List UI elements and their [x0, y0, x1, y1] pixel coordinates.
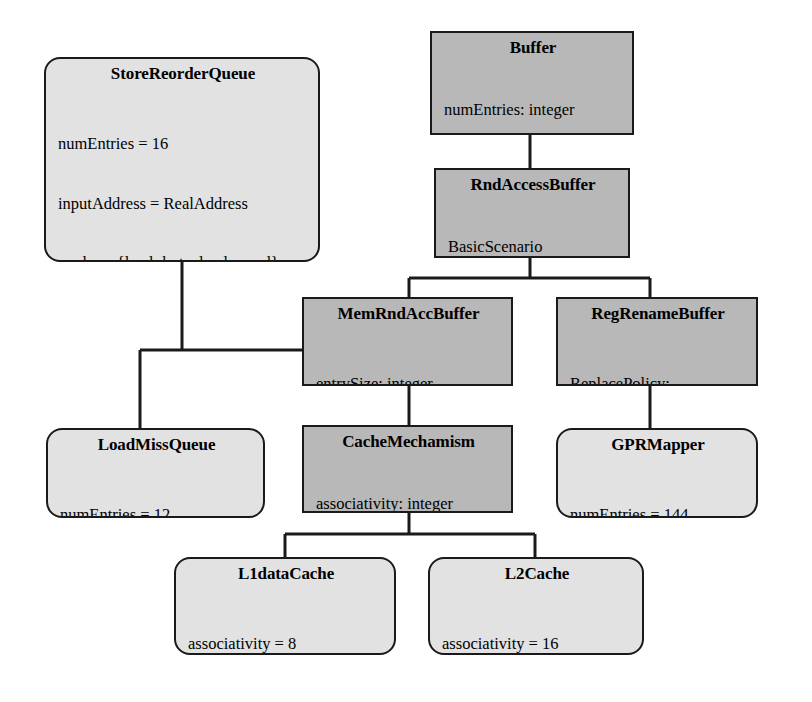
node-l2-cache[interactable]: L2Cache associativity = 16 ...	[428, 557, 644, 655]
node-title-mem-rnd-acc-buffer: MemRndAccBuffer	[316, 304, 501, 325]
node-rnd-access-buffer[interactable]: RndAccessBuffer BasicScenario RAW: ... W…	[434, 168, 630, 258]
node-attributes-load-miss-queue: numEntries = 12 entrySize = 8	[60, 465, 253, 518]
attribute-line: numEntries = 16	[58, 134, 308, 154]
node-attributes-buffer: numEntries: integer reader: instruction−…	[444, 60, 622, 135]
attribute-line: associativity = 8	[188, 634, 384, 654]
node-title-buffer: Buffer	[444, 38, 622, 59]
node-reg-rename-buffer[interactable]: RegRenameBuffer ReplacePolicy: ...	[556, 297, 758, 386]
attribute-line: associativity: integer	[316, 494, 501, 513]
attribute-line: inputAddress = RealAddress	[58, 194, 308, 214]
node-title-gpr-mapper: GPRMapper	[570, 435, 746, 456]
attribute-line: numEntries = 12	[60, 505, 253, 518]
attribute-line: entrySize: integer	[316, 374, 501, 386]
node-title-l1-data-cache: L1dataCache	[188, 564, 384, 585]
node-l1-data-cache[interactable]: L1dataCache associativity = 8 tag = addr…	[174, 557, 396, 655]
node-title-reg-rename-buffer: RegRenameBuffer	[570, 304, 746, 325]
node-title-l2-cache: L2Cache	[442, 564, 632, 585]
node-load-miss-queue[interactable]: LoadMissQueue numEntries = 12 entrySize …	[46, 428, 265, 518]
node-title-load-miss-queue: LoadMissQueue	[60, 435, 253, 456]
attribute-line: ReplacePolicy: ...	[570, 374, 746, 386]
node-attributes-gpr-mapper: numEntries = 144	[570, 465, 746, 518]
node-title-cache-mechamism: CacheMechamism	[316, 432, 501, 453]
node-gpr-mapper[interactable]: GPRMapper numEntries = 144	[556, 428, 758, 518]
node-store-reorder-queue[interactable]: StoreReorderQueue numEntries = 16 inputA…	[44, 57, 320, 262]
node-attributes-cache-mechamism: associativity: integer rowIndex: ... tag…	[316, 454, 501, 513]
attribute-line: numEntries: integer	[444, 100, 622, 120]
node-attributes-rnd-access-buffer: BasicScenario RAW: ... WAR: ...	[448, 197, 618, 258]
uml-class-diagram: StoreReorderQueue numEntries = 16 inputA…	[0, 0, 812, 702]
node-title-store-reorder-queue: StoreReorderQueue	[58, 64, 308, 85]
node-attributes-store-reorder-queue: numEntries = 16 inputAddress = RealAddre…	[58, 94, 308, 262]
node-cache-mechamism[interactable]: CacheMechamism associativity: integer ro…	[302, 425, 513, 513]
node-title-rnd-access-buffer: RndAccessBuffer	[448, 175, 618, 196]
node-attributes-l2-cache: associativity = 16 ...	[442, 594, 632, 655]
node-attributes-l1-data-cache: associativity = 8 tag = address[32:45]	[188, 594, 384, 655]
attribute-line: BasicScenario	[448, 237, 618, 257]
attribute-line: numEntries = 144	[570, 505, 746, 518]
node-attributes-reg-rename-buffer: ReplacePolicy: ...	[570, 334, 746, 386]
attribute-line: associativity = 16	[442, 634, 632, 654]
node-attributes-mem-rnd-acc-buffer: entrySize: integer inputAddress: ...	[316, 334, 501, 386]
node-mem-rnd-acc-buffer[interactable]: MemRndAccBuffer entrySize: integer input…	[302, 297, 513, 386]
attribute-line: reader = {load−byte, load−word}	[58, 253, 308, 262]
node-buffer[interactable]: Buffer numEntries: integer reader: instr…	[430, 31, 634, 135]
